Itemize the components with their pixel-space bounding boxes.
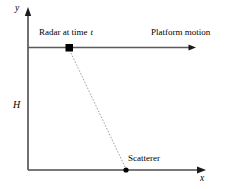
height-label: H bbox=[13, 100, 20, 110]
platform-track-line bbox=[28, 45, 196, 51]
x-axis bbox=[28, 167, 206, 174]
radar-label: Radar at timet bbox=[39, 28, 93, 37]
platform-motion-label: Platform motion bbox=[151, 28, 210, 37]
scatterer-label: Scatterer bbox=[128, 154, 160, 163]
radar-label-text: Radar at time bbox=[39, 27, 87, 37]
radar-marker bbox=[66, 44, 74, 52]
line-of-sight-dashed bbox=[70, 50, 126, 168]
y-axis bbox=[25, 7, 31, 170]
radar-time-variable: t bbox=[90, 27, 93, 37]
diagram-canvas: Radar at timet Platform motion Scatterer… bbox=[0, 0, 236, 189]
x-axis-label: x bbox=[200, 174, 204, 184]
scatterer-marker bbox=[123, 167, 128, 172]
y-axis-label: y bbox=[15, 4, 19, 14]
